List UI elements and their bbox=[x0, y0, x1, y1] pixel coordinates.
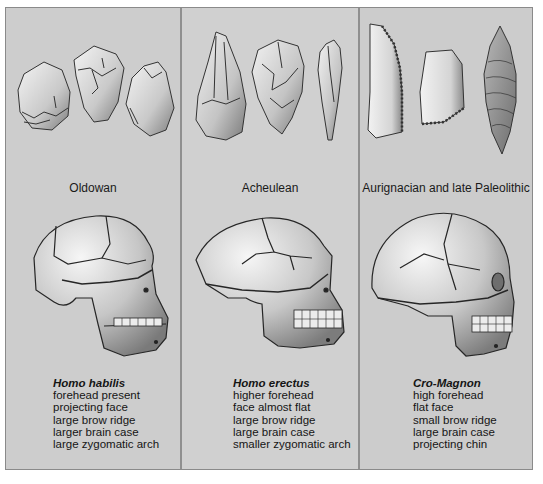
trait: higher forehead bbox=[233, 389, 351, 401]
end-scraper-icon bbox=[420, 50, 464, 124]
species-description: Homo erectus higher forehead face almost… bbox=[233, 377, 351, 450]
panel-homo-erectus: Acheulean bbox=[182, 8, 360, 469]
oldowan-scraper-icon bbox=[126, 62, 174, 136]
laurel-leaf-point-icon bbox=[484, 26, 516, 154]
oldowan-chopper-icon bbox=[18, 62, 70, 130]
blade-tool-icon bbox=[368, 24, 402, 138]
trait: large brow ridge bbox=[53, 414, 159, 426]
trait: large brow ridge bbox=[233, 414, 351, 426]
trait: larger brain case bbox=[53, 426, 159, 438]
trait: flat face bbox=[413, 401, 497, 413]
trait: high forehead bbox=[413, 389, 497, 401]
trait: forehead present bbox=[53, 389, 159, 401]
trait: large brain case bbox=[413, 426, 497, 438]
species-description: Cro-Magnon high forehead flat face small… bbox=[413, 377, 497, 450]
trait: small brow ridge bbox=[413, 414, 497, 426]
acheulean-handaxe-icon bbox=[196, 32, 246, 140]
cro-magnon-skull-illustration bbox=[360, 198, 532, 373]
trait: large zygomatic arch bbox=[53, 438, 159, 450]
industry-label: Oldowan bbox=[6, 181, 180, 195]
acheulean-tools-illustration bbox=[182, 12, 358, 157]
panel-cro-magnon: Aurignacian and late Paleolithic bbox=[360, 8, 532, 469]
panel-homo-habilis: Oldowan bbox=[6, 8, 182, 469]
homo-erectus-skull-illustration bbox=[182, 198, 358, 373]
trait: projecting chin bbox=[413, 438, 497, 450]
aurignacian-tools-illustration bbox=[360, 12, 532, 157]
trait: face almost flat bbox=[233, 401, 351, 413]
species-description: Homo habilis forehead present projecting… bbox=[53, 377, 159, 450]
trait: smaller zygomatic arch bbox=[233, 438, 351, 450]
hominid-comparison-figure: Oldowan bbox=[5, 7, 533, 470]
species-name: Homo habilis bbox=[53, 377, 159, 389]
species-name: Homo erectus bbox=[233, 377, 351, 389]
homo-habilis-skull-illustration bbox=[6, 198, 180, 373]
industry-label: Aurignacian and late Paleolithic bbox=[360, 181, 532, 195]
species-name: Cro-Magnon bbox=[413, 377, 497, 389]
trait: large brain case bbox=[233, 426, 351, 438]
skull-icon bbox=[196, 218, 344, 348]
trait: projecting face bbox=[53, 401, 159, 413]
skull-icon bbox=[34, 216, 168, 356]
oldowan-flake-icon bbox=[74, 46, 124, 122]
oldowan-tools-illustration bbox=[6, 12, 180, 157]
acheulean-point-icon bbox=[318, 40, 342, 140]
skull-icon bbox=[372, 213, 514, 356]
acheulean-biface-icon bbox=[252, 40, 304, 134]
industry-label: Acheulean bbox=[182, 181, 358, 195]
